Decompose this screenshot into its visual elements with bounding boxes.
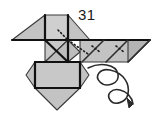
- body-bottom-point-triangle: [35, 88, 80, 110]
- body-left-bevel: [26, 62, 35, 88]
- body-square-panel: [35, 62, 80, 88]
- figure-number-label: 31: [78, 7, 96, 22]
- flip-spiral-arrow: [88, 65, 133, 108]
- spiral-arrow-path: [88, 65, 133, 104]
- origami-figure: 31: [0, 0, 157, 116]
- left-wing-triangle: [12, 15, 45, 40]
- body-right-bevel: [80, 62, 89, 88]
